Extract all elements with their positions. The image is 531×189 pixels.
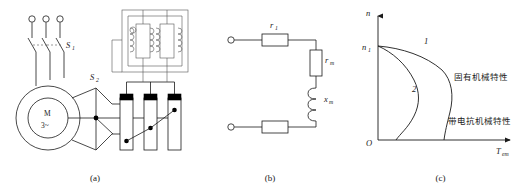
reactor-column-1 [120, 94, 133, 150]
resistor-r1-sublabel: 1 [275, 25, 278, 31]
reactor-cap-3 [168, 94, 181, 100]
terminal-input-bottom [228, 124, 234, 130]
panel-a-motor-circuit: S 1 M 3~ [0, 0, 190, 189]
y-tick-n1-sublabel: 1 [368, 47, 371, 53]
supply-terminals [29, 16, 63, 22]
reactor-column-3 [168, 94, 181, 150]
motor-feed-leads [36, 52, 64, 86]
three-phase-winding-block [112, 10, 188, 72]
winding-frame-outer [122, 10, 188, 72]
reactor-cap-1 [120, 94, 133, 100]
switch-s2[interactable] [96, 88, 113, 150]
origin-label: O [366, 138, 372, 148]
resistor-rm-sublabel: m [330, 60, 334, 66]
terminal-input-top [228, 37, 234, 43]
core-limb-2 [160, 24, 174, 58]
supply-leads [32, 22, 60, 38]
panel-b-equivalent-circuit: r 1 r m x m (b) [190, 0, 350, 189]
figure-root: S 1 M 3~ [0, 0, 531, 189]
switch-s1-label: S [66, 40, 71, 50]
y-tick-n1-label: n [362, 42, 366, 52]
curve-1-annotation: 1 [424, 36, 428, 46]
motor-letter: M [44, 109, 51, 118]
x-axis-sublabel: em [502, 151, 509, 157]
terminal-l1 [29, 16, 35, 22]
resistor-r1-label: r [270, 20, 274, 30]
switch-s1[interactable] [28, 38, 64, 52]
panel-b-caption: (b) [190, 173, 350, 183]
reactor-body-2 [144, 98, 157, 150]
terminal-l3 [57, 16, 63, 22]
coil-group-left [130, 27, 136, 52]
switch-s2-sublabel: 2 [96, 77, 99, 83]
coil-group-mid-left [150, 28, 154, 52]
motor-inner-circle [28, 98, 68, 138]
panel-a-svg: S 1 M 3~ [0, 0, 190, 160]
resistor-r1 [262, 34, 288, 46]
junction-dot-s2 [94, 116, 99, 121]
reactor-body-3 [168, 98, 181, 150]
terminal-l2 [43, 16, 49, 22]
switch-s1-sublabel: 1 [72, 45, 75, 51]
motor-phase-label: 3~ [41, 121, 49, 130]
coil-group-mid-right [156, 28, 160, 52]
wire-top-right [288, 40, 316, 50]
reactor-cap-2 [144, 94, 157, 100]
panel-a-caption: (a) [0, 173, 190, 183]
panel-c-characteristic-curves: n T em O n 1 1 2 固有机械特性 带电抗机械特性 (c) [350, 0, 531, 189]
coil-group-right [178, 28, 182, 52]
panel-c-svg: n T em O n 1 1 2 固有机械特性 带电抗机械特性 [350, 0, 531, 160]
panel-b-svg: r 1 r m x m [190, 0, 350, 160]
resistor-bottom [262, 121, 288, 133]
core-limb-1 [136, 24, 150, 58]
legend-natural-characteristic: 固有机械特性 [454, 72, 508, 82]
resistor-rm-label: r [325, 55, 329, 65]
reactor-top-bus [127, 82, 175, 94]
resistor-rm [310, 50, 322, 76]
inductor-xm-sublabel: m [329, 99, 333, 105]
legend-reactance-characteristic: 带电抗机械特性 [448, 116, 511, 126]
reactor-column-2 [144, 94, 157, 150]
winding-to-reactor-bus [143, 72, 167, 82]
inductor-xm [308, 88, 316, 121]
y-axis-label: n [366, 8, 370, 18]
switch-s2-label: S [90, 72, 95, 82]
panel-c-caption: (c) [350, 173, 531, 183]
inductor-xm-label: x [323, 94, 328, 104]
